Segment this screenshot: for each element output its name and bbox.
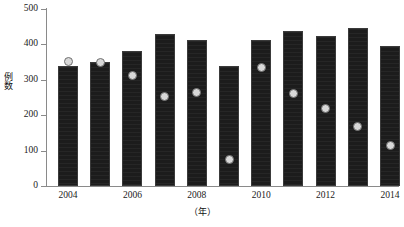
y-tick-mark (41, 115, 47, 116)
data-point (64, 57, 73, 66)
bar (155, 34, 175, 186)
bar-chart: 例数 0100200300400500 20042006200820102012… (0, 0, 404, 227)
data-point (128, 71, 137, 80)
bar (90, 62, 110, 186)
x-tick-label: 2006 (123, 190, 142, 200)
bar (187, 40, 207, 186)
y-tick-label: 300 (0, 75, 38, 85)
y-axis-line (46, 8, 47, 187)
x-tick-label: 2014 (381, 190, 400, 200)
bar (348, 28, 368, 186)
data-point (192, 88, 201, 97)
y-tick-mark (41, 9, 47, 10)
bar (283, 31, 303, 186)
x-tick-label: 2008 (187, 190, 206, 200)
bar (219, 66, 239, 186)
y-tick-label: 400 (0, 39, 38, 49)
y-tick-label: 500 (0, 4, 38, 14)
y-tick-mark (41, 80, 47, 81)
y-tick-label: 100 (0, 146, 38, 156)
data-point (386, 141, 395, 150)
y-tick-label: 0 (0, 181, 38, 191)
y-tick-mark (41, 44, 47, 45)
x-tick-label: 2004 (59, 190, 78, 200)
x-axis-line (46, 186, 399, 187)
bar (58, 66, 78, 186)
data-point (225, 155, 234, 164)
bar (380, 46, 400, 186)
x-axis-title: （年） (0, 205, 404, 218)
data-point (96, 58, 105, 67)
x-tick-label: 2012 (316, 190, 335, 200)
data-point (257, 63, 266, 72)
x-tick-label: 2010 (252, 190, 271, 200)
y-tick-mark (41, 151, 47, 152)
y-tick-label: 200 (0, 110, 38, 120)
y-tick-mark (41, 186, 47, 187)
data-point (321, 104, 330, 113)
